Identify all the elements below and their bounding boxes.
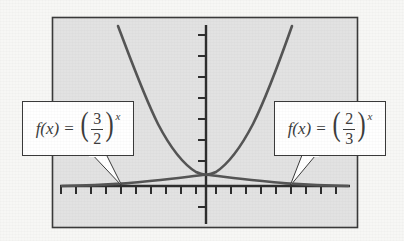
formula-right-power: ( 2 3 ) x [331, 110, 373, 147]
left-paren-open-icon: ( [80, 110, 88, 138]
formula-left-fraction: 3 2 [90, 111, 104, 147]
formula-right-equals: = [316, 120, 326, 137]
formula-right-fraction: 2 3 [342, 111, 356, 147]
formula-right-exponent: x [367, 111, 372, 122]
formula-left-power: ( 3 2 ) x [79, 110, 121, 147]
formula-left-equals: = [64, 120, 74, 137]
left-paren-close-icon: ) [106, 110, 114, 138]
formula-left-function: f(x) [36, 120, 60, 137]
annotation-callout-left: f(x) = ( 3 2 ) x [22, 101, 134, 156]
right-paren-open-icon: ( [332, 110, 340, 138]
annotation-callout-right: f(x) = ( 2 3 ) x [274, 101, 386, 156]
right-paren-close-icon: ) [358, 110, 366, 138]
figure-container: f(x) = ( 3 2 ) x f(x) = ( 2 [0, 0, 404, 241]
formula-left-denominator: 2 [93, 131, 101, 147]
formula-left-exponent: x [115, 111, 120, 122]
formula-left: f(x) = ( 3 2 ) x [36, 110, 121, 147]
formula-right-function: f(x) [288, 120, 312, 137]
formula-right: f(x) = ( 2 3 ) x [288, 110, 373, 147]
formula-right-denominator: 3 [345, 131, 353, 147]
formula-right-numerator: 2 [345, 111, 353, 127]
formula-left-numerator: 3 [93, 111, 101, 127]
